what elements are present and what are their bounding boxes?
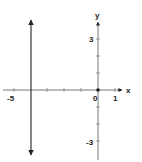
y-tick-label-3: 3	[89, 35, 94, 44]
x-axis-label: x	[126, 86, 131, 95]
y-tick-label-neg3: -3	[86, 138, 94, 147]
y-axis-label: y	[95, 11, 100, 20]
origin-point	[96, 88, 100, 92]
coordinate-plane: x y -5 0 1 3 -3	[0, 0, 142, 162]
x-tick-label-neg5: -5	[7, 94, 15, 103]
x-axis	[3, 88, 122, 92]
origin-label: 0	[93, 94, 98, 103]
x-tick-label-1: 1	[113, 94, 118, 103]
